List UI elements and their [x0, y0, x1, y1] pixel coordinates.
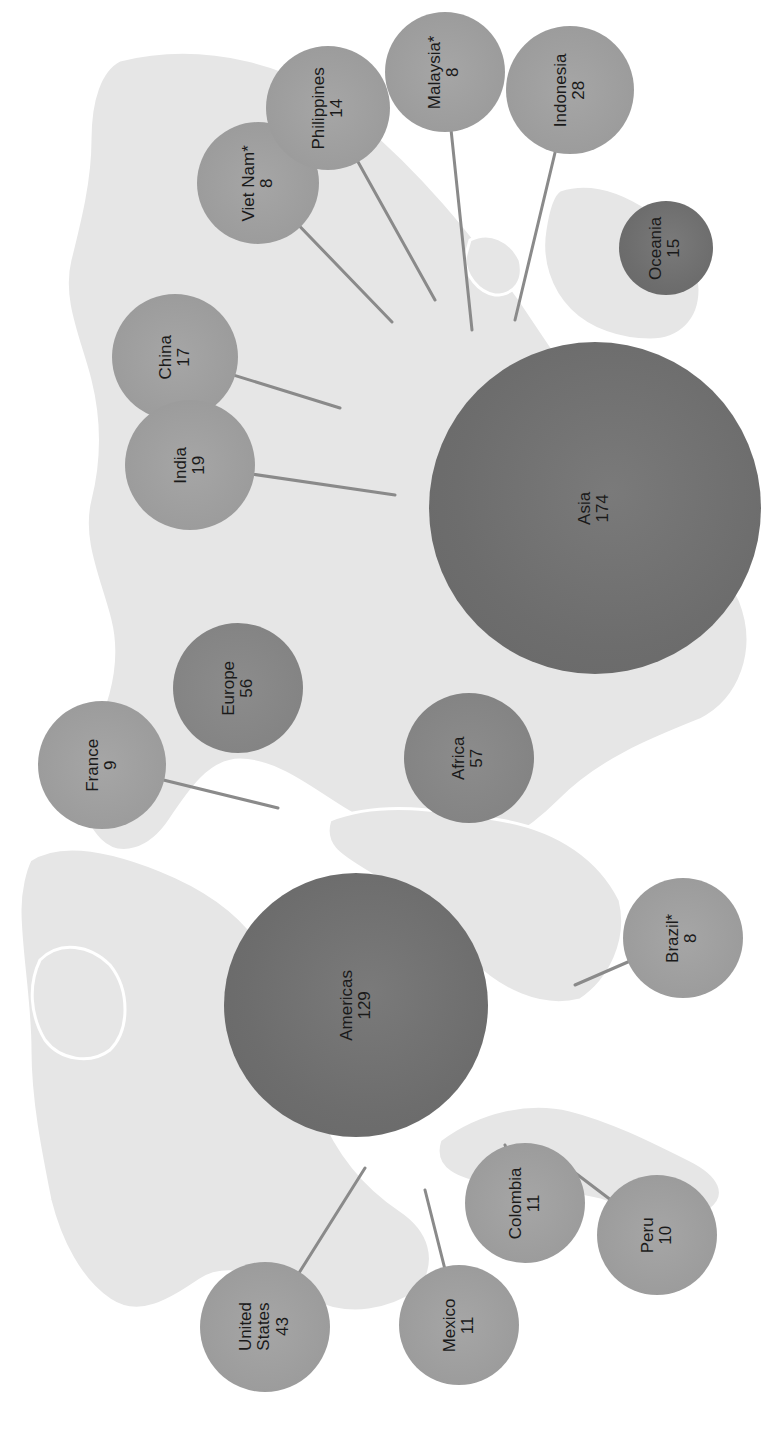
bubble-name: Europe — [220, 661, 238, 716]
bubble-value: 43 — [274, 1302, 292, 1351]
bubble-india: India19 — [125, 400, 255, 530]
bubble-value: 56 — [238, 661, 256, 716]
bubble-name: Mexico — [441, 1298, 459, 1352]
bubble-name: France — [84, 739, 102, 792]
bubble-name: China — [157, 335, 175, 379]
bubble-mexico: Mexico11 — [399, 1265, 519, 1385]
bubble-label: Indonesia28 — [552, 53, 589, 127]
bubble-label: Colombia11 — [507, 1167, 544, 1239]
bubble-name: Brazil* — [665, 913, 683, 962]
bubble-value: 57 — [469, 736, 487, 779]
bubble-value: 9 — [102, 739, 120, 792]
bubble-oceania: Oceania15 — [619, 201, 713, 295]
bubble-label: Oceania15 — [648, 216, 685, 279]
bubble-value: 11 — [459, 1298, 477, 1352]
bubble-united-states: United States43 — [200, 1262, 330, 1392]
bubble-peru: Peru10 — [597, 1175, 717, 1295]
bubble-value: 15 — [666, 216, 684, 279]
bubble-value: 10 — [657, 1217, 675, 1253]
bubble-value: 17 — [175, 335, 193, 379]
bubble-name: Africa — [451, 736, 469, 779]
bubble-value: 129 — [356, 970, 374, 1041]
bubble-malaysia: Malaysia*8 — [385, 12, 505, 132]
bubble-name: India — [172, 447, 190, 484]
bubble-label: Mexico11 — [441, 1298, 478, 1352]
bubble-name: Viet Nam* — [240, 145, 258, 221]
bubble-africa: Africa57 — [404, 693, 534, 823]
bubble-label: India19 — [172, 447, 209, 484]
bubble-label: Peru10 — [639, 1217, 676, 1253]
bubble-value: 28 — [570, 53, 588, 127]
bubble-name: Philippines — [310, 67, 328, 149]
bubble-label: China17 — [157, 335, 194, 379]
bubble-americas: Americas129 — [224, 873, 488, 1137]
bubble-name: Peru — [639, 1217, 657, 1253]
bubble-label: Brazil*8 — [665, 913, 702, 962]
bubble-label: Africa57 — [451, 736, 488, 779]
bubble-name: Oceania — [648, 216, 666, 279]
bubble-label: Malaysia*8 — [427, 35, 464, 109]
bubble-asia: Asia174 — [429, 342, 761, 674]
bubble-value: 8 — [258, 145, 276, 221]
bubble-name: Colombia — [507, 1167, 525, 1239]
bubble-label: Europe56 — [220, 661, 257, 716]
bubble-france: France9 — [38, 701, 166, 829]
bubble-label: Americas129 — [338, 970, 375, 1041]
bubble-europe: Europe56 — [173, 623, 303, 753]
bubble-map-chart: Viet Nam*8Philippines14Malaysia*8Indones… — [0, 0, 774, 1438]
bubble-name: Asia — [577, 491, 595, 524]
bubble-label: France9 — [84, 739, 121, 792]
bubble-label: Viet Nam*8 — [240, 145, 277, 221]
bubble-philippines: Philippines14 — [266, 46, 390, 170]
bubble-colombia: Colombia11 — [465, 1143, 585, 1263]
bubble-name: Malaysia* — [427, 35, 445, 109]
bubble-value: 8 — [445, 35, 463, 109]
bubble-value: 11 — [525, 1167, 543, 1239]
bubble-brazil: Brazil*8 — [623, 878, 743, 998]
bubble-value: 14 — [328, 67, 346, 149]
bubble-indonesia: Indonesia28 — [506, 26, 634, 154]
bubble-label: Asia174 — [577, 491, 614, 524]
bubble-label: Philippines14 — [310, 67, 347, 149]
bubble-name: Americas — [338, 970, 356, 1041]
bubble-name: United States — [237, 1302, 274, 1351]
bubble-name: Indonesia — [552, 53, 570, 127]
bubble-label: United States43 — [237, 1302, 292, 1351]
bubble-value: 174 — [595, 491, 613, 524]
bubble-value: 8 — [683, 913, 701, 962]
bubble-value: 19 — [190, 447, 208, 484]
